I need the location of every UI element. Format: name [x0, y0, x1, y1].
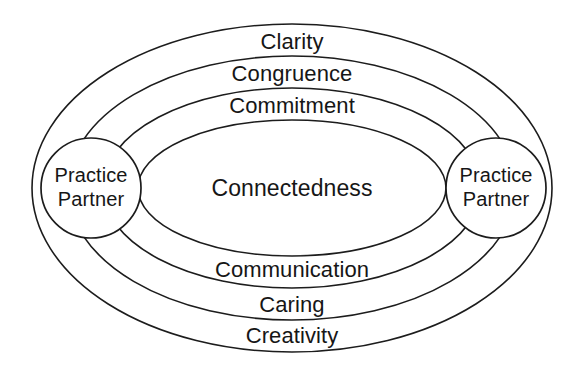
ring-label-caring: Caring [259, 293, 324, 316]
diagram-canvas: Clarity Congruence Commitment Connectedn… [0, 0, 584, 370]
right-partner-label-line2: Partner [459, 188, 532, 212]
ring-label-congruence: Congruence [232, 62, 353, 85]
right-partner-label-line1: Practice [459, 164, 532, 188]
left-partner-label-line2: Partner [54, 188, 127, 212]
ring-label-creativity: Creativity [246, 324, 339, 347]
ring-label-commitment: Commitment [229, 94, 355, 117]
left-partner-label-line1: Practice [54, 164, 127, 188]
ring-label-clarity: Clarity [260, 30, 323, 53]
core-label-connectedness: Connectedness [211, 176, 372, 200]
left-partner-label: Practice Partner [54, 164, 127, 211]
ring-label-communication: Communication [215, 258, 369, 281]
right-partner-label: Practice Partner [459, 164, 532, 211]
